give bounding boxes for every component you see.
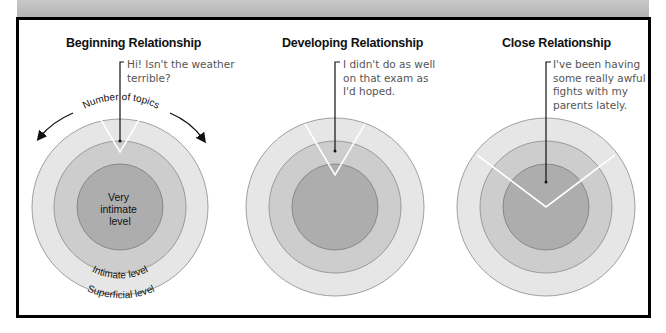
circle-close xyxy=(457,62,635,296)
arrow-left-icon xyxy=(40,113,73,137)
circle-beginning: Very intimate level Number of topics Int… xyxy=(32,62,208,300)
arrow-right-icon xyxy=(170,113,203,139)
label-number-of-topics: Number of topics xyxy=(81,91,162,111)
circle-developing xyxy=(246,62,424,296)
social-penetration-diagram: Very intimate level Number of topics Int… xyxy=(0,0,666,333)
very-intimate-core xyxy=(292,164,378,250)
